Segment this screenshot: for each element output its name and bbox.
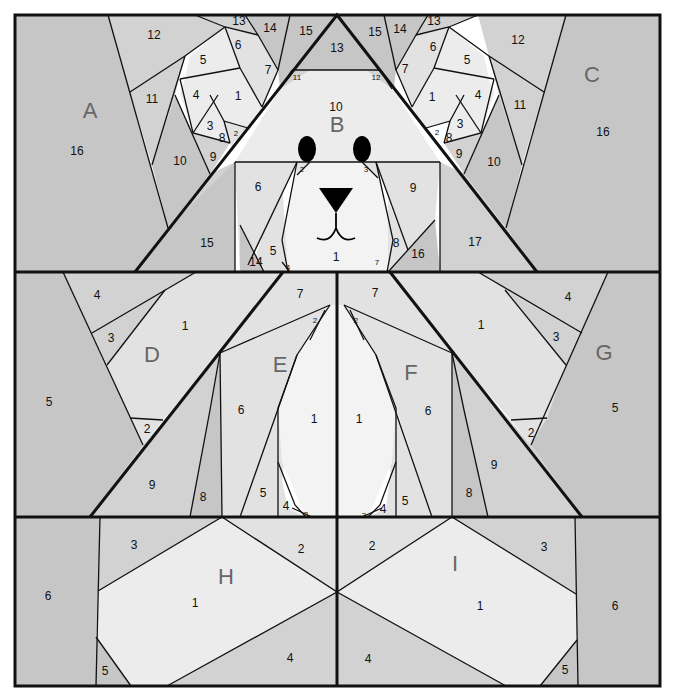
piece-c1: 1: [429, 90, 436, 104]
piece-g4: 4: [565, 290, 572, 304]
piece-c15: 15: [368, 25, 382, 39]
piece-a16: 16: [70, 144, 84, 158]
piece-a1: 1: [235, 89, 242, 103]
piece-g9: 9: [491, 458, 498, 472]
piece-b7: 7: [375, 258, 380, 267]
piece-c11: 11: [514, 98, 527, 112]
piece-b8: 8: [393, 236, 400, 250]
piece-i6: 6: [612, 599, 619, 613]
piece-i4: 4: [365, 652, 372, 666]
piece-c7: 7: [402, 62, 409, 76]
piece-e7: 7: [297, 287, 304, 301]
piece-b10: 10: [329, 100, 343, 114]
piece-a10: 10: [173, 154, 187, 168]
piece-d1: 1: [182, 319, 189, 333]
piece-g3: 3: [553, 330, 560, 344]
piece-e3: 3: [304, 510, 309, 519]
piece-b9: 9: [410, 181, 417, 195]
piece-b16: 16: [411, 247, 425, 261]
piece-a8: 8: [219, 131, 226, 145]
piece-d9: 9: [149, 478, 156, 492]
letter-i: I: [452, 551, 458, 576]
piece-c14: 14: [393, 22, 407, 36]
piece-g5: 5: [612, 401, 619, 415]
letter-d: D: [144, 342, 160, 367]
piece-e6: 6: [238, 403, 245, 417]
piece-c8: 8: [446, 131, 453, 145]
piece-f3: 3: [362, 511, 367, 520]
piece-e1: 1: [311, 412, 318, 426]
piece-f1: 1: [356, 412, 363, 426]
piece-a9: 9: [210, 150, 217, 164]
piece-f4: 4: [380, 502, 387, 516]
piece-c3: 3: [457, 117, 464, 131]
piece-a15: 15: [299, 24, 313, 38]
left-eye-icon: [298, 136, 316, 162]
piece-b15: 15: [200, 236, 214, 250]
piece-c10: 10: [487, 155, 501, 169]
piece-b13: 13: [330, 41, 344, 55]
letter-h: H: [218, 564, 234, 589]
letter-g: G: [595, 340, 612, 365]
piece-e8: 8: [200, 490, 207, 504]
piece-h1: 1: [192, 596, 199, 610]
piece-b5: 5: [270, 244, 277, 258]
piece-d3: 3: [108, 331, 115, 345]
piece-a2: 2: [234, 129, 239, 138]
piece-a4: 4: [193, 88, 200, 102]
letter-a: A: [83, 98, 98, 123]
piece-c12: 12: [511, 33, 525, 47]
piece-h5: 5: [102, 664, 109, 678]
piece-b17: 17: [468, 235, 482, 249]
piece-b14: 14: [249, 255, 263, 269]
letter-f: F: [404, 360, 417, 385]
piece-f5: 5: [402, 494, 409, 508]
bear-quilt-pattern-diagram: A B C D E F G H I 16 12 11 10 13 14 15 7…: [0, 0, 674, 694]
piece-a12: 12: [147, 28, 161, 42]
piece-h4: 4: [287, 651, 294, 665]
piece-a11: 11: [146, 92, 159, 106]
letter-b: B: [330, 112, 345, 137]
piece-c13: 13: [427, 14, 441, 28]
piece-a3: 3: [207, 119, 214, 133]
piece-g1: 1: [478, 318, 485, 332]
piece-i5: 5: [562, 663, 569, 677]
piece-e2: 2: [313, 316, 318, 325]
piece-h2: 2: [298, 542, 305, 556]
piece-h6: 6: [45, 589, 52, 603]
piece-i1: 1: [477, 599, 484, 613]
piece-f8: 8: [466, 486, 473, 500]
piece-d2: 2: [144, 422, 151, 436]
piece-c9: 9: [456, 147, 463, 161]
piece-b12: 12: [372, 73, 381, 82]
piece-i3: 3: [541, 540, 548, 554]
piece-a14: 14: [263, 21, 277, 35]
piece-c2: 2: [435, 128, 440, 137]
piece-f6: 6: [425, 404, 432, 418]
letter-c: C: [584, 62, 600, 87]
piece-d5: 5: [46, 395, 53, 409]
piece-a6: 6: [235, 38, 242, 52]
piece-h3: 3: [131, 538, 138, 552]
piece-e5: 5: [260, 486, 267, 500]
piece-a13: 13: [232, 14, 246, 28]
piece-b3: 3: [364, 165, 369, 174]
piece-c5: 5: [464, 53, 471, 67]
piece-b2: 2: [300, 165, 305, 174]
piece-a5: 5: [200, 53, 207, 67]
piece-c16: 16: [596, 125, 610, 139]
piece-d4: 4: [94, 288, 101, 302]
piece-b11: 11: [293, 73, 302, 82]
letter-e: E: [273, 352, 288, 377]
piece-e4: 4: [283, 499, 290, 513]
piece-f2: 2: [354, 316, 359, 325]
piece-f7: 7: [372, 286, 379, 300]
piece-c6: 6: [430, 40, 437, 54]
piece-c4: 4: [475, 88, 482, 102]
right-eye-icon: [353, 136, 371, 162]
piece-b4: 4: [286, 263, 291, 272]
piece-b6: 6: [255, 180, 262, 194]
piece-a7: 7: [265, 63, 272, 77]
piece-g2: 2: [528, 426, 535, 440]
piece-b1: 1: [333, 250, 340, 264]
